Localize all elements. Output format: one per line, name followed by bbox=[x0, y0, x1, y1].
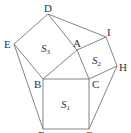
vertex-label-A: A bbox=[73, 37, 81, 49]
edges bbox=[14, 14, 117, 129]
vertex-label-I: I bbox=[107, 26, 111, 38]
geometry-diagram: D E A I H B C F G S3 S2 S1 bbox=[0, 0, 131, 133]
area-label-s1: S1 bbox=[61, 98, 71, 112]
vertex-label-B: B bbox=[34, 78, 41, 90]
vertex-label-D: D bbox=[44, 2, 52, 14]
vertex-label-H: H bbox=[119, 61, 127, 73]
area-label-s3: S3 bbox=[41, 42, 51, 56]
area-label-s2: S2 bbox=[92, 54, 102, 68]
vertex-label-E: E bbox=[4, 38, 11, 50]
segment-AI bbox=[77, 37, 106, 50]
vertex-label-C: C bbox=[92, 78, 99, 90]
segment-DE bbox=[14, 14, 48, 44]
segment-CA bbox=[77, 50, 89, 79]
segment-IH bbox=[106, 37, 117, 66]
vertex-label-G: G bbox=[85, 129, 93, 133]
segment-EB bbox=[14, 44, 43, 79]
vertex-label-F: F bbox=[38, 129, 44, 133]
segment-HG bbox=[89, 66, 117, 129]
